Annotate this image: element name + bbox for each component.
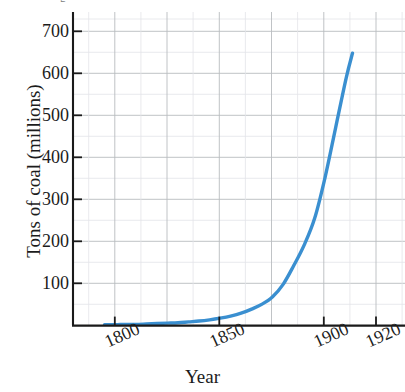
y-tick-label-700: 700 <box>15 22 69 40</box>
plot-background <box>73 12 405 325</box>
chart-figure: g <box>0 0 405 392</box>
y-axis-title: Tons of coal (millions) <box>23 41 45 301</box>
x-axis-title: Year <box>0 366 405 388</box>
